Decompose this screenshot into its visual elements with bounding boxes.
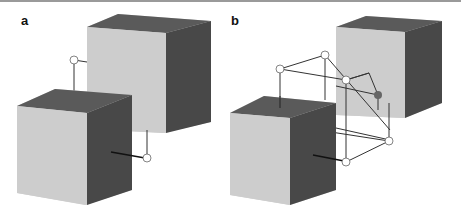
panel-b <box>230 16 442 205</box>
node <box>143 154 151 162</box>
cube-front-side-face <box>87 95 132 205</box>
node <box>70 56 78 64</box>
node-dark <box>374 91 382 99</box>
cube-back-side-face <box>166 21 211 133</box>
panel-a <box>17 14 211 205</box>
cube-front-front-face <box>17 106 87 205</box>
diagram <box>0 0 461 215</box>
